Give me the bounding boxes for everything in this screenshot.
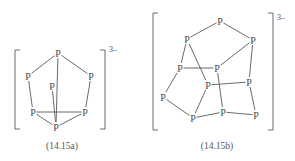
caption-label: (14.15a) [46,141,78,152]
atom-phosphorus: P [253,110,259,121]
bond-line [217,68,223,112]
atom-phosphorus: P [30,107,36,118]
left-bracket [153,13,158,130]
atom-phosphorus: P [53,122,59,133]
atom-phosphorus: P [160,92,166,103]
atom-phosphorus: P [177,63,183,74]
caption-label: (14.15b) [201,141,233,152]
atom-phosphorus: P [217,16,223,27]
charge-label: 3– [277,13,286,22]
structure-14-15b: PPPPPPPPPPP 3– (14.15b) [153,13,286,152]
bond-line [193,112,223,118]
bond-line [28,53,58,76]
atom-phosphorus: P [214,63,220,74]
atoms: PPPPPPPPPPP [160,16,260,124]
right-bracket [268,13,273,130]
right-bracket [100,50,105,129]
bond-line [56,112,85,127]
atom-phosphorus: P [55,48,61,59]
atoms: PPPPPPP [25,48,95,133]
charge-label: 3– [109,45,118,54]
bond-line [56,53,58,127]
bond-line [217,40,253,68]
bond-line [187,21,220,39]
atom-phosphorus: P [250,35,256,46]
bond-line [163,97,193,118]
atom-phosphorus: P [184,34,190,45]
atom-phosphorus: P [246,77,252,88]
atom-phosphorus: P [49,81,55,92]
structure-14-15a: PPPPPPP 3– (14.15a) [15,45,118,152]
atom-phosphorus: P [25,71,31,82]
bond-line [220,21,253,40]
brackets [15,50,105,129]
bond-line [223,112,256,115]
bond-line [58,53,91,76]
bond-line [187,39,208,85]
atom-phosphorus: P [205,80,211,91]
atom-phosphorus: P [190,113,196,124]
phosphorus-cluster-diagram: PPPPPPP 3– (14.15a) PPPPPPPPPPP 3– (14.1… [0,0,295,161]
bond-line [208,82,249,85]
atom-phosphorus: P [88,71,94,82]
atom-phosphorus: P [82,107,88,118]
atom-phosphorus: P [220,107,226,118]
left-bracket [15,50,20,129]
